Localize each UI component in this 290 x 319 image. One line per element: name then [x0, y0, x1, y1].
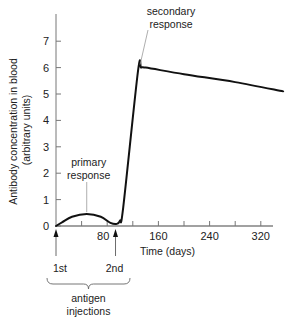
y-axis-title-line1: Antibody concentration in blood — [7, 58, 19, 205]
y-axis-title: Antibody concentration in blood (arbitra… — [7, 55, 32, 204]
x-tick-label: 240 — [200, 230, 218, 242]
y-tick-label: 5 — [43, 88, 49, 100]
x-tick-label: 160 — [149, 230, 167, 242]
x-axis-title: Time (days) — [140, 245, 195, 257]
x-tick-label: 80 — [97, 230, 109, 242]
secondary-response-label-line: secondary — [147, 5, 196, 17]
secondary-response-label-line: response — [149, 18, 192, 30]
antibody-curve — [56, 60, 283, 226]
injection-group-label: antigeninjections — [67, 292, 111, 317]
y-tick-label: 1 — [43, 194, 49, 206]
y-tick-label: 7 — [43, 35, 49, 47]
primary-response-label: primaryresponse — [67, 156, 110, 181]
injection-arrowhead-icon — [54, 229, 59, 237]
injection-label: 1st — [53, 262, 67, 274]
injection-bracket — [47, 278, 130, 289]
y-tick-label: 4 — [43, 114, 49, 126]
y-axis-title-line2: (arbitrary units) — [20, 95, 32, 166]
x-tick-label: 320 — [252, 230, 270, 242]
y-tick-label: 0 — [43, 220, 49, 232]
axes — [56, 14, 273, 226]
injection-group-label-line: injections — [67, 305, 111, 317]
secondary-response-leader — [140, 30, 148, 65]
annotations: primaryresponsesecondaryresponse1st2ndan… — [47, 5, 196, 317]
secondary-response-label: secondaryresponse — [147, 5, 196, 30]
primary-response-label-line: response — [67, 169, 110, 181]
y-tick-label: 6 — [43, 62, 49, 74]
tick-labels: 0123456780160240320 — [43, 35, 270, 242]
primary-response-label-line: primary — [71, 156, 107, 168]
injection-group-label-line: antigen — [71, 292, 106, 304]
y-tick-label: 2 — [43, 167, 49, 179]
injection-arrowhead-icon — [113, 229, 118, 237]
antibody-response-chart: 0123456780160240320 primaryresponsesecon… — [0, 0, 290, 319]
injection-label: 2nd — [106, 262, 124, 274]
y-tick-label: 3 — [43, 141, 49, 153]
